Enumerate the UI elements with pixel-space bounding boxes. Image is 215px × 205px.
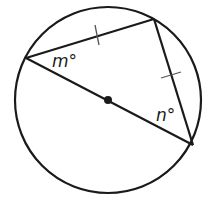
angle-n-label: n°	[156, 105, 175, 125]
chord-top-bottom	[154, 19, 193, 145]
angle-m-label: m°	[52, 51, 77, 71]
center-point	[104, 96, 112, 104]
circle-diagram: m° n°	[0, 0, 215, 205]
chord-left-top	[26, 19, 154, 58]
